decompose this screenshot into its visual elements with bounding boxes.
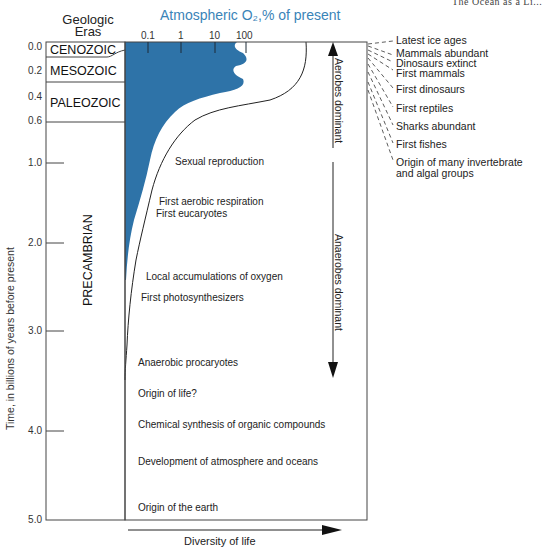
y-tick-3.0: 3.0 — [12, 325, 42, 336]
event-chemical-synthesis: Chemical synthesis of organic compounds — [138, 419, 325, 430]
y-tick-0.4: 0.4 — [12, 91, 42, 102]
y-axis-title: Time, in billions of years before presen… — [4, 247, 16, 430]
event-first-photosynthesizers: First photosynthesizers — [141, 292, 244, 303]
y-tick-2.0: 2.0 — [12, 237, 42, 248]
y-tick-5.0: 5.0 — [12, 514, 42, 525]
era-precambrian: PRECAMBRIAN — [81, 214, 95, 306]
side-latest-ice-ages: Latest ice ages — [396, 35, 467, 46]
y-tick-4.0: 4.0 — [12, 425, 42, 436]
event-local-oxygen: Local accumulations of oxygen — [146, 271, 283, 282]
aerobes-dominant-label: Aerobes dominant — [333, 58, 345, 143]
y-tick-0.6: 0.6 — [12, 115, 42, 126]
o2-tick-10: 10 — [209, 30, 220, 41]
o2-tick-1: 1 — [178, 30, 184, 41]
anaerobes-dominant-label: Anaerobes dominant — [333, 234, 345, 331]
event-sexual-reproduction: Sexual reproduction — [175, 156, 264, 167]
side-first-reptiles: First reptiles — [396, 103, 453, 114]
event-anaerobic-procaryotes: Anaerobic procaryotes — [138, 357, 238, 368]
side-sharks-abundant: Sharks abundant — [396, 121, 475, 132]
y-tick-1.0: 1.0 — [12, 157, 42, 168]
era-cenozoic: CENOZOIC — [50, 43, 116, 57]
event-origin-of-life: Origin of life? — [138, 388, 197, 399]
event-first-eucaryotes: First eucaryotes — [156, 208, 227, 219]
side-first-dinosaurs: First dinosaurs — [396, 84, 465, 95]
side-first-fishes: First fishes — [396, 139, 447, 150]
event-origin-of-earth: Origin of the earth — [138, 502, 218, 513]
y-tick-0.2: 0.2 — [12, 65, 42, 76]
o2-axis-title: Atmospheric O₂,% of present — [160, 7, 341, 23]
geologic-eras-title: Geologic Eras — [48, 14, 128, 38]
event-atmosphere-oceans: Development of atmosphere and oceans — [138, 456, 318, 467]
side-first-mammals: First mammals — [396, 68, 465, 79]
side-algal-groups: and algal groups — [396, 168, 474, 179]
eras-title-line2: Eras — [48, 26, 128, 38]
y-tick-0.0: 0.0 — [12, 41, 42, 52]
o2-tick-100: 100 — [236, 30, 253, 41]
x-axis-title: Diversity of life — [184, 535, 256, 547]
era-mesozoic: MESOZOIC — [50, 64, 117, 78]
event-first-aerobic-respiration: First aerobic respiration — [159, 196, 263, 207]
era-paleozoic: PALEOZOIC — [50, 96, 121, 110]
o2-tick-0.1: 0.1 — [141, 30, 155, 41]
clipped-page-header: The Ocean as a Li... — [452, 0, 542, 7]
